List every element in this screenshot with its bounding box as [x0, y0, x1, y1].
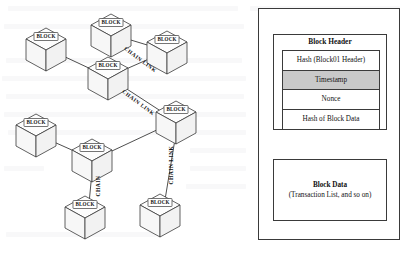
- block-data-title: Block Data: [313, 180, 347, 190]
- block-node-label: BLOCK: [75, 201, 94, 207]
- header-field-row: Hash (Block01 Header): [283, 51, 379, 71]
- block-node[interactable]: BLOCK: [156, 101, 196, 144]
- chain-link-label: CHAIN LINK: [121, 88, 156, 116]
- block-structure-panel: Block Header Hash (Block01 Header) Times…: [258, 8, 400, 240]
- block-node-label: BLOCK: [150, 199, 169, 205]
- header-field-row: Hash of Block Data: [283, 110, 379, 130]
- block-node[interactable]: BLOCK: [16, 114, 56, 157]
- block-data-subtitle: (Transaction List, and so on): [289, 190, 372, 200]
- chain-link-label: CHAIN: [95, 176, 101, 197]
- block-node-label: BLOCK: [101, 19, 120, 25]
- chain-link-label: CHAIN LINK: [168, 145, 174, 184]
- block-node[interactable]: BLOCK: [26, 28, 66, 71]
- block-header-group: Block Header Hash (Block01 Header) Times…: [273, 34, 387, 130]
- block-node[interactable]: BLOCK: [65, 196, 105, 239]
- block-node[interactable]: BLOCK: [140, 194, 180, 237]
- blockchain-network-diagram: BLOCK BLOCK BLOCK: [0, 0, 250, 253]
- block-nodes: BLOCK BLOCK BLOCK: [16, 14, 196, 239]
- block-node-label: BLOCK: [36, 33, 55, 39]
- block-header-field-list: Hash (Block01 Header) Timestamp Nonce Ha…: [282, 50, 380, 130]
- block-data-box: Block Data (Transaction List, and so on): [273, 159, 387, 221]
- header-field-row: Timestamp: [283, 71, 379, 91]
- block-header-title: Block Header: [274, 35, 386, 49]
- block-node[interactable]: BLOCK: [72, 139, 112, 182]
- network-svg: BLOCK BLOCK BLOCK: [0, 0, 250, 253]
- blockchain-figure: BLOCK BLOCK BLOCK: [0, 0, 408, 253]
- block-node-label: BLOCK: [26, 119, 45, 125]
- header-field-row: Nonce: [283, 90, 379, 110]
- block-node-label: BLOCK: [157, 36, 176, 42]
- block-node-label: BLOCK: [82, 144, 101, 150]
- block-node-label: BLOCK: [98, 62, 117, 68]
- block-node-label: BLOCK: [166, 106, 185, 112]
